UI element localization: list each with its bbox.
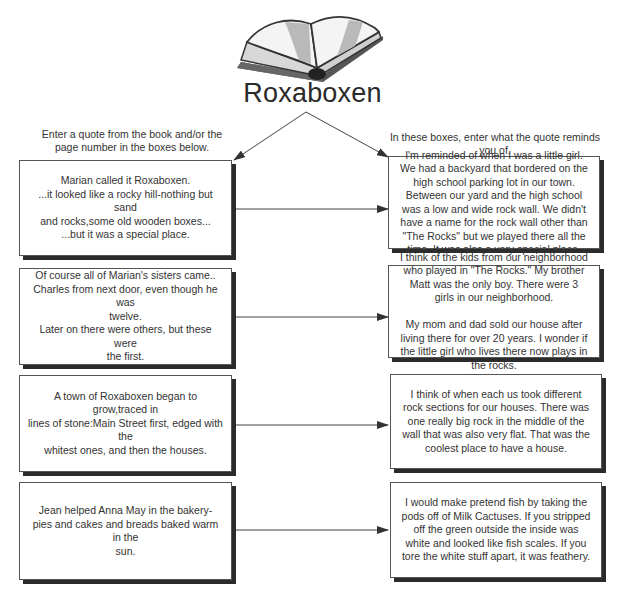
quote-box-2[interactable]: Of course all of Marian's sisters came..… (19, 268, 232, 365)
quote-box-4[interactable]: Jean helped Anna May in the bakery- pies… (19, 482, 232, 580)
quote-box-1[interactable]: Marian called it Roxaboxen. ...it looked… (19, 160, 232, 256)
reminds-box-2[interactable]: I think of the kids from our neighborhoo… (388, 265, 600, 358)
reminds-box-4[interactable]: I would make pretend fish by taking the … (390, 482, 602, 578)
left-column-instruction: Enter a quote from the book and/or the p… (18, 128, 246, 154)
quote-text: Jean helped Anna May in the bakery- pies… (20, 504, 231, 558)
reminds-box-1[interactable]: I'm reminded of when I was a little girl… (388, 156, 600, 249)
quote-text: A town of Roxaboxen began to grow,traced… (20, 390, 231, 458)
reminds-box-3[interactable]: I think of when each us took different r… (390, 374, 602, 469)
quote-box-3[interactable]: A town of Roxaboxen began to grow,traced… (19, 375, 232, 472)
reminds-text: I would make pretend fish by taking the … (391, 496, 601, 564)
reminds-text: I think of when each us took different r… (391, 388, 601, 456)
quote-text: Marian called it Roxaboxen. ...it looked… (20, 174, 231, 242)
quote-text: Of course all of Marian's sisters came..… (20, 269, 231, 364)
reminds-text: I'm reminded of when I was a little girl… (389, 149, 599, 257)
reminds-text: I think of the kids from our neighborhoo… (389, 251, 599, 373)
